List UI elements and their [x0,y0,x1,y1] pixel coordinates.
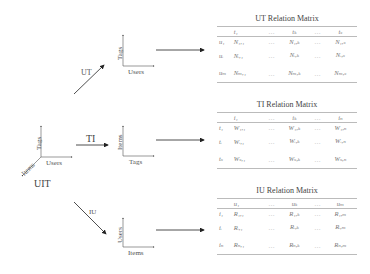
cell: N₁,ₖ [278,38,311,46]
cell: Nₘ,ₖ [278,69,311,77]
row-label: iᵢ [217,224,234,231]
cell: Wᵢ,ₙ [324,137,357,145]
row-label: uᵢ [217,52,234,59]
ut-plot-y: Tags [116,47,124,60]
row-label: t₁ [217,124,234,131]
matrix-title: IU Relation Matrix [217,186,357,195]
matrix-row: iᵢ Rᵢ,₁ … Rᵢ,ₖ … Rᵢ,ₘ [217,218,357,236]
col-header: iₖ [278,114,311,122]
matrix-row: u₁ N₁,₁ … N₁,ₖ … N₁,ₛ [217,37,357,46]
ut-plot-x: Users [128,68,144,76]
iu-arrow-label: IU [89,208,96,216]
cell: Wₛ,ₙ [324,155,357,163]
iu-plot-x: Items [128,249,144,257]
matrix-row: uₘ Nₘ,₁ … Nₘ,ₖ … Nₘ,ₛ [217,64,357,82]
matrix-title: TI Relation Matrix [217,100,357,109]
uit-axis-tags: Tags [35,137,43,150]
cell: R₁,₁ [234,210,265,217]
ti-arrow-label: TI [86,133,95,144]
cell: Nᵢ,₁ [234,52,265,59]
row-label: uₘ [217,69,234,77]
cell: Wᵢ,₁ [234,138,265,145]
cell: Nᵢ,ₖ [278,51,311,59]
iu-arrow [74,202,106,234]
col-ellipsis: … [265,200,278,207]
cell: W₁,ₖ [278,124,311,132]
cell: Rᵢ,ₖ [278,223,311,231]
cell: R₁,ₘ [324,210,357,218]
col-ellipsis: … [311,114,324,121]
matrix-header-row: u₁ … uₖ … uₘ [217,199,357,208]
iu-plot-y: Users [116,227,124,243]
uit-axis-users: Users [46,159,62,167]
matrix-row: i₁ R₁,₁ … R₁,ₖ … R₁,ₘ [217,209,357,218]
cell: Rᵢ,₁ [234,224,265,231]
col-header: iₙ [324,114,357,122]
cell: Wₛ,ₖ [278,155,311,163]
col-header: u₁ [234,200,265,207]
cell: Nₘ,ₛ [324,69,357,77]
ut-relation-matrix: UT Relation Matrix t₁ … tₖ … tₛ u₁ N₁,₁ … [217,14,357,83]
row-label: tₛ [217,155,234,163]
col-ellipsis: … [265,114,278,121]
col-ellipsis: … [265,28,278,35]
cell: W₁,ₙ [324,124,357,132]
cell: N₁,ₛ [324,38,357,46]
cell: Rᵢ,ₘ [324,223,357,231]
cell: Nₘ,₁ [234,69,265,77]
ti-plot-y: Items [116,134,124,150]
col-header: uₖ [278,200,311,208]
cell: W₁,₁ [234,124,265,131]
uit-label: UIT [34,178,51,189]
row-label: i₁ [217,210,234,217]
matrix-row: uᵢ Nᵢ,₁ … Nᵢ,ₖ … Nᵢ,ₛ [217,46,357,64]
col-header: uₘ [324,200,357,208]
cell: R₁,ₖ [278,210,311,218]
col-header: tₛ [324,28,357,36]
matrix-header-row: t₁ … tₖ … tₛ [217,27,357,36]
matrix-row: tᵢ Wᵢ,₁ … Wᵢ,ₖ … Wᵢ,ₙ [217,132,357,150]
ti-plot-x: Tags [129,158,142,166]
matrix-row: t₁ W₁,₁ … W₁,ₖ … W₁,ₙ [217,123,357,132]
matrix-row: tₛ Wₛ,₁ … Wₛ,ₖ … Wₛ,ₙ [217,150,357,168]
row-label: u₁ [217,38,234,45]
col-ellipsis: … [311,200,324,207]
matrix-title: UT Relation Matrix [217,14,357,23]
ut-arrow-label: UT [81,68,92,77]
row-label: tᵢ [217,138,234,145]
cell: Nᵢ,ₛ [324,51,357,59]
row-label: iₙ [217,241,234,249]
iu-relation-matrix: IU Relation Matrix u₁ … uₖ … uₘ i₁ R₁,₁ … [217,186,357,255]
col-header: i₁ [234,114,265,121]
col-ellipsis: … [311,28,324,35]
cell: N₁,₁ [234,38,265,45]
col-header: tₖ [278,28,311,36]
cell: Wᵢ,ₖ [278,137,311,145]
col-header: t₁ [234,28,265,35]
matrix-header-row: i₁ … iₖ … iₙ [217,113,357,122]
ti-relation-matrix: TI Relation Matrix i₁ … iₖ … iₙ t₁ W₁,₁ … [217,100,357,169]
cell: Wₛ,₁ [234,155,265,163]
matrix-row: iₙ Rₙ,₁ … Rₙ,ₖ … Rₙ,ₘ [217,236,357,254]
cell: Rₙ,₁ [234,241,265,249]
cell: Rₙ,ₘ [324,241,357,249]
cell: Rₙ,ₖ [278,241,311,249]
